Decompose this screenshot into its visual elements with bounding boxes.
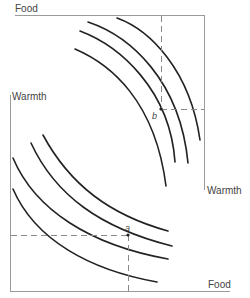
bottom-panel-curves	[13, 135, 172, 282]
bottom-curve-2	[31, 143, 172, 246]
indifference-diagram	[0, 0, 250, 298]
top-curve-2	[80, 31, 175, 162]
bottom-curve-3	[13, 158, 168, 259]
top-panel-curves	[75, 18, 200, 186]
top-curve-4	[117, 18, 200, 140]
point-a-label: a	[125, 224, 130, 233]
bottom-horizontal-axis-label: Food	[208, 280, 231, 290]
top-panel-axes	[15, 15, 205, 190]
point-a	[126, 233, 129, 236]
point-b-label: b	[152, 112, 157, 121]
point-b	[159, 107, 162, 110]
bottom-vertical-axis-label: Warmth	[12, 92, 47, 102]
top-vertical-axis-label: Food	[15, 4, 38, 14]
top-panel-guides	[161, 16, 204, 110]
top-horizontal-axis-label: Warmth	[207, 186, 242, 196]
